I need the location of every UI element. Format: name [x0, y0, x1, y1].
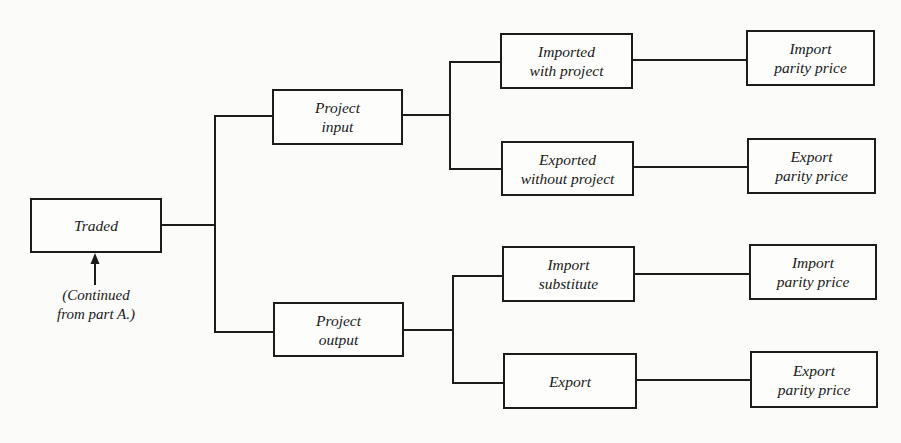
node-label-line-2: output	[319, 330, 359, 349]
node-label-line-2: parity price	[777, 272, 850, 291]
node-label-line-1: Exported	[539, 150, 596, 169]
node-label-line-1: Export	[549, 372, 591, 391]
node-label-line-1: Project	[316, 311, 361, 330]
note-line-1: (Continued	[36, 286, 156, 305]
node-import-parity-price-1: Import parity price	[746, 30, 875, 86]
node-label-line-2: without project	[521, 169, 615, 188]
node-label-line-1: Export	[790, 147, 832, 166]
node-export-parity-price-2: Export parity price	[750, 351, 878, 408]
node-export: Export	[503, 353, 637, 409]
node-label-line-1: Import	[547, 255, 589, 274]
node-imported-with-project: Imported with project	[500, 33, 633, 89]
node-label-line-1: Import	[792, 253, 834, 272]
node-label-line-1: Export	[793, 361, 835, 380]
continued-note: (Continued from part A.)	[36, 286, 156, 324]
note-line-2: from part A.)	[36, 305, 156, 324]
node-import-parity-price-2: Import parity price	[749, 244, 877, 300]
node-label-line-1: Project	[315, 98, 360, 117]
valuation-tree-diagram: Traded (Continued from part A.) Project …	[0, 0, 901, 443]
node-project-input: Project input	[272, 89, 403, 145]
node-label-line-1: Import	[789, 39, 831, 58]
node-label-line-2: parity price	[775, 166, 848, 185]
node-label-line-2: parity price	[774, 58, 847, 77]
node-label-line-2: parity price	[778, 380, 851, 399]
node-exported-without-project: Exported without project	[501, 141, 634, 196]
node-export-parity-price-1: Export parity price	[747, 138, 876, 194]
node-label-line-2: input	[322, 117, 354, 136]
node-label-line-2: substitute	[539, 274, 598, 293]
node-label-line-2: with project	[530, 61, 604, 80]
node-import-substitute: Import substitute	[502, 246, 635, 302]
node-traded: Traded	[30, 198, 162, 253]
node-label-line-1: Imported	[538, 42, 595, 61]
node-label: Traded	[74, 216, 118, 235]
arrow-up-icon	[91, 253, 100, 264]
node-project-output: Project output	[273, 302, 404, 357]
